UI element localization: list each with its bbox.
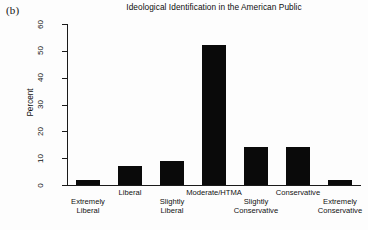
y-axis-tick-label: 60 — [36, 4, 45, 44]
x-axis-category-label: SlightlyConservative — [211, 198, 301, 215]
x-axis-category-label: SlightlyLiberal — [127, 198, 217, 215]
x-axis-category-label: ExtremelyConservative — [295, 198, 368, 215]
x-axis-category-label: ExtremelyLiberal — [43, 198, 133, 215]
y-axis-tick — [62, 185, 67, 186]
plot-area: 0102030405060 Percent ExtremelyLiberalLi… — [0, 0, 368, 230]
y-axis-line — [67, 24, 68, 185]
y-axis-tick — [62, 24, 67, 25]
y-axis-tick — [62, 51, 67, 52]
x-axis-label-line: Conservative — [295, 207, 368, 216]
y-axis-tick — [62, 78, 67, 79]
bar — [202, 45, 225, 185]
x-axis-line — [67, 185, 361, 186]
bar — [76, 180, 99, 185]
bar — [286, 147, 309, 185]
x-axis-label-line: Liberal — [127, 207, 217, 216]
y-axis-tick — [62, 131, 67, 132]
figure-panel: (b) Ideological Identification in the Am… — [0, 0, 368, 230]
y-axis-tick — [62, 158, 67, 159]
bar — [118, 166, 141, 185]
x-axis-label-line: Conservative — [211, 207, 301, 216]
y-axis-title: Percent — [26, 63, 35, 143]
y-axis-tick — [62, 105, 67, 106]
bar — [328, 180, 351, 185]
x-axis-label-line: Liberal — [43, 207, 133, 216]
bar — [160, 161, 183, 185]
bar — [244, 147, 267, 185]
